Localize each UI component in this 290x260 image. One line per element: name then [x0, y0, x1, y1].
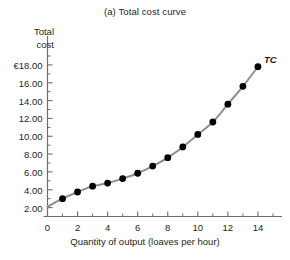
y-tick-label: 16.00: [1, 77, 43, 88]
series-label-tc: TC: [264, 54, 277, 65]
x-tick-label: 4: [95, 222, 121, 233]
y-tick-label: 2.00: [1, 202, 43, 213]
data-point: [134, 170, 141, 177]
data-point: [179, 144, 186, 151]
total-cost-curve: [48, 67, 258, 207]
y-tick-label: 10.00: [1, 131, 43, 142]
data-point: [104, 180, 111, 187]
data-point: [74, 189, 81, 196]
chart-title: (a) Total cost curve: [0, 6, 290, 17]
x-tick-label: 6: [125, 222, 151, 233]
data-point: [194, 131, 201, 138]
tc-curve-path: [48, 67, 258, 207]
y-tick-label: €18.00: [1, 59, 43, 70]
chart-figure: (a) Total cost curve Total cost Quantity…: [0, 0, 290, 260]
x-tick-label: 2: [65, 222, 91, 233]
x-tick-label: 0: [35, 222, 61, 233]
x-tick-label: 12: [215, 222, 241, 233]
y-tick-label: 6.00: [1, 166, 43, 177]
y-tick-label: 12.00: [1, 113, 43, 124]
axis-ticks: [48, 56, 273, 217]
data-point-markers: [59, 63, 261, 202]
data-point: [164, 154, 171, 161]
y-axis-title: Total cost: [14, 26, 54, 51]
y-tick-label: 4.00: [1, 184, 43, 195]
x-axis-title: Quantity of output (loaves per hour): [0, 236, 290, 247]
x-tick-label: 10: [185, 222, 211, 233]
data-point: [240, 83, 247, 90]
data-point: [119, 175, 126, 182]
data-point: [224, 101, 231, 108]
y-tick-label: 14.00: [1, 95, 43, 106]
data-point: [89, 183, 96, 190]
y-tick-label: 8.00: [1, 149, 43, 160]
data-point: [255, 63, 262, 70]
x-tick-label: 8: [155, 222, 181, 233]
x-tick-label: 14: [245, 222, 271, 233]
data-point: [209, 119, 216, 126]
data-point: [149, 163, 156, 170]
data-point: [59, 195, 66, 202]
